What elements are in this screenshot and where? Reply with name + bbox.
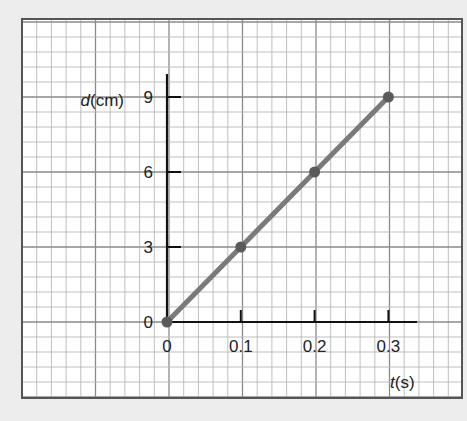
x-tick-label: 0.2 [303, 337, 327, 356]
y-tick-label: 3 [144, 238, 153, 257]
data-point-marker [309, 167, 320, 178]
data-point-marker [383, 92, 394, 103]
data-point-marker [235, 242, 246, 253]
x-axis-label: t(s) [390, 373, 415, 392]
y-tick-label: 6 [144, 163, 153, 182]
y-tick-label: 9 [144, 88, 153, 107]
y-tick-label: 0 [144, 313, 153, 332]
x-tick-label: 0.1 [229, 337, 253, 356]
x-tick-label: 0.3 [377, 337, 401, 356]
y-axis-label: d(cm) [81, 91, 124, 110]
x-tick-label: 0 [162, 337, 171, 356]
distance-time-chart: 0369 00.10.20.3 d(cm) t(s) [0, 0, 467, 421]
data-point-marker [162, 317, 173, 328]
